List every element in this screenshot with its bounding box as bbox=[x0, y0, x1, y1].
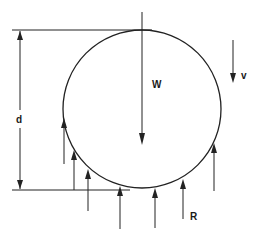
diameter-dimension bbox=[17, 31, 23, 189]
reaction-arrow bbox=[152, 188, 158, 228]
velocity-arrow bbox=[230, 40, 236, 83]
diameter-label: d bbox=[16, 114, 22, 125]
reaction-arrow bbox=[211, 143, 217, 191]
reaction-arrow bbox=[61, 118, 67, 164]
weight-arrow bbox=[139, 12, 145, 145]
reaction-arrow bbox=[71, 150, 77, 190]
sphere-force-diagram: d W v bbox=[0, 0, 259, 239]
reaction-label: R bbox=[190, 211, 198, 222]
reaction-arrow bbox=[180, 179, 186, 219]
velocity-label: v bbox=[241, 70, 247, 81]
reaction-arrow bbox=[117, 186, 123, 229]
weight-label: W bbox=[152, 79, 162, 90]
